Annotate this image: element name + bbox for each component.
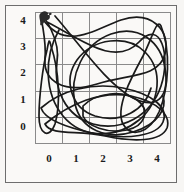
plot-area (35, 12, 171, 144)
y-tick-label-2: 2 (16, 66, 30, 78)
x-tick-label-3: 3 (122, 152, 138, 164)
curve-loop-3 (55, 16, 166, 135)
y-tick-label-0: 0 (16, 120, 30, 132)
curve-loop-9 (39, 41, 58, 133)
x-tick-label-0: 0 (41, 152, 57, 164)
x-tick-label-1: 1 (68, 152, 84, 164)
turtle-plot-figure: 4 3 2 1 0 0 1 2 3 4 (0, 0, 184, 192)
y-tick-label-4: 4 (16, 14, 30, 26)
x-tick-label-2: 2 (95, 152, 111, 164)
turtle-curves (35, 12, 171, 144)
y-tick-label-1: 1 (16, 93, 30, 105)
y-tick-label-3: 3 (16, 40, 30, 52)
x-tick-label-4: 4 (149, 152, 165, 164)
